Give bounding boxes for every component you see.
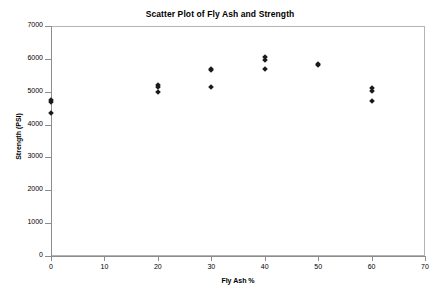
x-axis-tick-label: 10 — [89, 263, 119, 270]
y-axis-tick — [45, 223, 51, 224]
y-axis-tick-label: 3000 — [3, 152, 43, 159]
y-axis-tick-label: 6000 — [3, 54, 43, 61]
chart-title: Scatter Plot of Fly Ash and Strength — [0, 9, 440, 19]
x-axis-tick — [158, 256, 159, 261]
x-axis-tick-label: 20 — [143, 263, 173, 270]
y-axis-tick-label: 5000 — [3, 87, 43, 94]
x-axis-tick — [104, 256, 105, 261]
y-axis-tick — [45, 26, 51, 27]
y-axis-tick-label: 4000 — [3, 120, 43, 127]
x-axis-tick — [372, 256, 373, 261]
y-axis-line — [51, 26, 52, 257]
y-axis-tick-labels: 01000200030004000500060007000 — [0, 0, 43, 294]
x-axis-tick-label: 30 — [196, 263, 226, 270]
y-axis-tick — [45, 190, 51, 191]
x-axis-tick — [318, 256, 319, 261]
scatter-chart-figure: Scatter Plot of Fly Ash and Strength 010… — [0, 0, 440, 294]
y-axis-tick — [45, 157, 51, 158]
x-axis-tick-label: 70 — [410, 263, 440, 270]
y-axis-title: Strength (PSI) — [15, 82, 22, 192]
x-axis-title: Fly Ash % — [51, 277, 425, 284]
x-axis-tick-label: 0 — [36, 263, 66, 270]
y-axis-tick — [45, 59, 51, 60]
y-axis-tick-label: 0 — [3, 251, 43, 258]
x-axis-tick-label: 50 — [303, 263, 333, 270]
x-axis-tick — [211, 256, 212, 261]
y-axis-tick-label: 7000 — [3, 21, 43, 28]
x-axis-tick-label: 60 — [357, 263, 387, 270]
x-axis-tick — [265, 256, 266, 261]
x-axis-tick — [51, 256, 52, 261]
x-axis-tick — [425, 256, 426, 261]
y-axis-tick — [45, 125, 51, 126]
x-axis-line — [51, 256, 426, 257]
y-axis-tick-label: 2000 — [3, 185, 43, 192]
y-axis-tick-label: 1000 — [3, 218, 43, 225]
x-axis-tick-label: 40 — [250, 263, 280, 270]
y-axis-tick — [45, 92, 51, 93]
plot-area — [51, 26, 425, 256]
